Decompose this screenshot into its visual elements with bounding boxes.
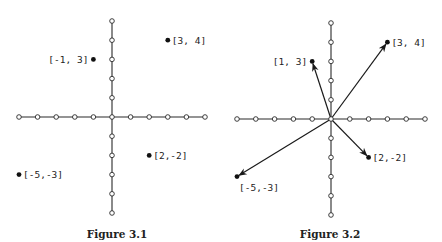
data-point	[385, 40, 390, 45]
x-tick-marker	[235, 117, 240, 122]
x-tick-marker	[423, 117, 428, 122]
x-tick-marker	[329, 117, 334, 122]
y-tick-marker	[329, 194, 334, 199]
x-tick-marker	[110, 115, 115, 120]
data-point	[235, 174, 240, 179]
y-tick-marker	[110, 192, 115, 197]
vector-arrow	[331, 119, 367, 156]
x-tick-marker	[17, 115, 22, 120]
data-point	[366, 155, 371, 160]
x-tick-marker	[91, 115, 96, 120]
y-tick-marker	[329, 155, 334, 160]
x-tick-marker	[184, 115, 189, 120]
x-tick-marker	[166, 115, 171, 120]
x-tick-marker	[73, 115, 78, 120]
vector-arrow	[331, 44, 386, 119]
figure-3-1: [3, 4][-1, 3][2,-2][-5,-3]Figure 3.1	[17, 19, 208, 240]
x-tick-marker	[348, 117, 353, 122]
vector-arrow	[313, 64, 331, 119]
x-tick-marker	[310, 117, 315, 122]
data-point	[91, 57, 96, 62]
y-tick-marker	[329, 40, 334, 45]
x-tick-marker	[54, 115, 59, 120]
y-tick-marker	[329, 78, 334, 83]
x-tick-marker	[203, 115, 208, 120]
point-label: [-1, 3]	[48, 54, 88, 65]
y-tick-marker	[329, 59, 334, 64]
x-tick-marker	[128, 115, 133, 120]
y-tick-marker	[110, 153, 115, 158]
y-tick-marker	[110, 19, 115, 24]
point-label: [3, 4]	[172, 35, 206, 46]
data-point	[17, 172, 22, 177]
vector-arrow	[239, 119, 331, 175]
x-tick-marker	[254, 117, 259, 122]
y-tick-marker	[329, 98, 334, 103]
data-point	[165, 38, 170, 43]
y-tick-marker	[110, 172, 115, 177]
point-label: [3, 4]	[391, 37, 425, 48]
y-tick-marker	[110, 38, 115, 43]
x-tick-marker	[366, 117, 371, 122]
figure-caption: Figure 3.1	[87, 228, 148, 240]
diagram-canvas: [3, 4][-1, 3][2,-2][-5,-3]Figure 3.1 [3,…	[0, 0, 442, 242]
y-tick-marker	[110, 76, 115, 81]
x-tick-marker	[385, 117, 390, 122]
x-tick-marker	[291, 117, 296, 122]
y-tick-marker	[329, 21, 334, 26]
y-tick-marker	[110, 134, 115, 139]
data-point	[147, 153, 152, 158]
y-tick-marker	[329, 136, 334, 141]
x-tick-marker	[272, 117, 277, 122]
data-point	[310, 59, 315, 64]
figure-caption: Figure 3.2	[300, 228, 361, 240]
point-label: [2,-2]	[373, 152, 407, 163]
x-tick-marker	[35, 115, 40, 120]
point-label: [1, 3]	[273, 56, 307, 67]
point-label: [2,-2]	[153, 150, 187, 161]
y-tick-marker	[110, 96, 115, 101]
point-label: [-5,-3]	[23, 169, 63, 180]
figure-3-2: [3, 4][1, 3][2,-2][-5,-3]Figure 3.2	[235, 21, 428, 240]
y-tick-marker	[110, 57, 115, 62]
y-tick-marker	[329, 213, 334, 218]
x-tick-marker	[404, 117, 409, 122]
y-tick-marker	[329, 174, 334, 179]
x-tick-marker	[147, 115, 152, 120]
point-label: [-5,-3]	[239, 182, 279, 193]
y-tick-marker	[110, 211, 115, 216]
